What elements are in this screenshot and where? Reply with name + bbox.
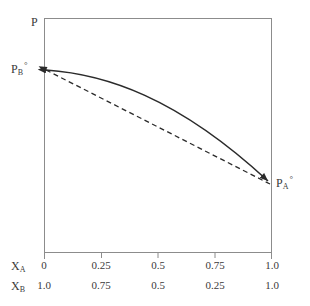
tick-label-xb-075: 0.75 [91,280,110,291]
pure-a-pressure-superscript: ° [289,174,293,184]
pure-b-pressure-superscript: ° [24,60,28,70]
tick-label-xb-1: 1.0 [37,280,51,291]
tick-label-xb-0: 1.0 [265,280,279,291]
tick-label-xb-05: 0.5 [151,280,165,291]
x-axis-tick-labels: XA 0 0.25 0.5 0.75 1.0 XB 1.0 0.75 0.5 0… [0,258,310,298]
tick-label-xa-05: 0.5 [151,260,165,271]
plot-frame [44,18,272,253]
tick-row-xb-name: XB [11,280,25,292]
tick-row-xb-base: X [11,279,20,293]
pure-b-pressure-base: P [11,62,18,76]
pure-a-pressure-subscript: A [283,182,289,191]
tick-label-xa-0: 0 [41,260,47,271]
tick-row-xa-name: XA [11,260,25,272]
tick-row-xa-base: X [11,259,20,273]
tick-row-xb: XB 1.0 0.75 0.5 0.25 1.0 [0,278,310,298]
pure-b-pressure-label: PB° [11,63,27,75]
tick-row-xa-subscript: A [20,265,26,274]
pure-a-pressure-label: PA° [276,177,292,189]
tick-label-xa-1: 1.0 [265,260,279,271]
tick-label-xa-075: 0.75 [205,260,224,271]
y-axis-label: P [31,16,38,28]
vapour-pressure-figure: P PB° PA° XA 0 0.25 0.5 0.75 1.0 XB 1.0 … [0,0,310,306]
pure-b-pressure-subscript: B [18,68,23,77]
tick-label-xb-025: 0.25 [205,280,224,291]
tick-row-xa: XA 0 0.25 0.5 0.75 1.0 [0,258,310,278]
pure-a-pressure-base: P [276,176,283,190]
tick-label-xa-025: 0.25 [91,260,110,271]
tick-row-xb-subscript: B [20,285,25,294]
